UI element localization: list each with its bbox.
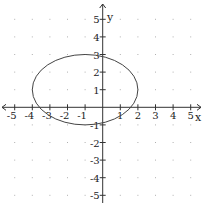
grid-dot (14, 124, 15, 125)
grid-dot (32, 54, 33, 55)
grid-dot (120, 54, 121, 55)
grid-dot (190, 160, 191, 161)
grid-dot (190, 54, 191, 55)
grid-dot (137, 124, 138, 125)
grid-dot (67, 177, 68, 178)
grid-dot (173, 36, 174, 37)
grid-dot (32, 124, 33, 125)
grid-dot (49, 195, 50, 196)
grid-dot (155, 195, 156, 196)
grid-dot (120, 160, 121, 161)
grid-dot (49, 89, 50, 90)
grid-dot (155, 72, 156, 73)
grid-dot (120, 177, 121, 178)
grid-dot (190, 36, 191, 37)
grid-dot (14, 89, 15, 90)
grid-dot (137, 36, 138, 37)
grid-dot (173, 177, 174, 178)
grid-dot (137, 142, 138, 143)
x-tick-label: -4 (24, 110, 34, 121)
grid-dot (14, 19, 15, 20)
x-tick-label: 5 (188, 110, 194, 121)
x-tick-label: 3 (152, 110, 158, 121)
grid-dot (173, 124, 174, 125)
grid-dot (32, 19, 33, 20)
grid-dot (190, 124, 191, 125)
grid-dot (190, 89, 191, 90)
grid-dot (120, 89, 121, 90)
grid-dot (85, 177, 86, 178)
coordinate-plane: -5-4-3-2-112345 54321-1-2-3-4-5 x y (0, 0, 203, 203)
grid-dot (137, 160, 138, 161)
grid-dot (155, 19, 156, 20)
grid-dot (173, 72, 174, 73)
grid-dot (14, 36, 15, 37)
grid-dot (173, 54, 174, 55)
y-tick-label: 1 (93, 85, 99, 96)
grid-dot (67, 124, 68, 125)
grid-dot (32, 195, 33, 196)
grid-dot (137, 54, 138, 55)
grid-dot (49, 54, 50, 55)
grid-dot (32, 72, 33, 73)
y-axis-label: y (106, 11, 114, 24)
grid-dot (190, 19, 191, 20)
x-tick-label: -1 (77, 110, 87, 121)
grid-dot (85, 160, 86, 161)
grid-dot (120, 72, 121, 73)
grid-dot (49, 72, 50, 73)
grid-dot (120, 19, 121, 20)
grid-dot (85, 195, 86, 196)
grid-dot (85, 142, 86, 143)
axes (2, 4, 201, 203)
grid-dot (67, 195, 68, 196)
grid-dot (14, 177, 15, 178)
grid-dot (32, 36, 33, 37)
grid-dot (173, 89, 174, 90)
x-tick-label: -2 (60, 110, 70, 121)
grid-dot (14, 72, 15, 73)
grid-dot (155, 142, 156, 143)
grid-dot (49, 19, 50, 20)
grid-dot (32, 142, 33, 143)
y-tick-label: -4 (90, 173, 100, 184)
grid-dot (14, 142, 15, 143)
grid-dot (137, 177, 138, 178)
grid-dot (155, 54, 156, 55)
grid-dot (155, 160, 156, 161)
grid-dot (85, 19, 86, 20)
grid-dot (32, 160, 33, 161)
grid-dot (14, 54, 15, 55)
grid-dot (190, 195, 191, 196)
grid-dot (67, 72, 68, 73)
grid-dot (155, 177, 156, 178)
grid-dot (67, 142, 68, 143)
grid-dot (49, 160, 50, 161)
grid-dot (137, 195, 138, 196)
y-tick-label: -1 (90, 120, 100, 131)
grid-dot (120, 124, 121, 125)
grid-dot (173, 19, 174, 20)
grid-dot (49, 124, 50, 125)
grid-dot (173, 160, 174, 161)
grid-dot (173, 142, 174, 143)
grid-dot (85, 72, 86, 73)
grid-dot (155, 36, 156, 37)
grid-dot (190, 142, 191, 143)
grid-dot (67, 54, 68, 55)
grid-dot (155, 124, 156, 125)
x-tick-labels: -5-4-3-2-112345 (7, 110, 194, 121)
y-tick-label: 5 (93, 14, 99, 25)
grid-dot (49, 177, 50, 178)
grid-dot (120, 36, 121, 37)
y-tick-label: -5 (90, 190, 100, 201)
y-tick-label: 4 (93, 32, 99, 43)
grid-dot (49, 142, 50, 143)
grid-dot (173, 195, 174, 196)
grid-dot (120, 195, 121, 196)
y-tick-label: -3 (90, 155, 100, 166)
x-tick-label: -5 (7, 110, 17, 121)
grid-dot (49, 36, 50, 37)
grid-dot (85, 36, 86, 37)
grid-dot (190, 72, 191, 73)
